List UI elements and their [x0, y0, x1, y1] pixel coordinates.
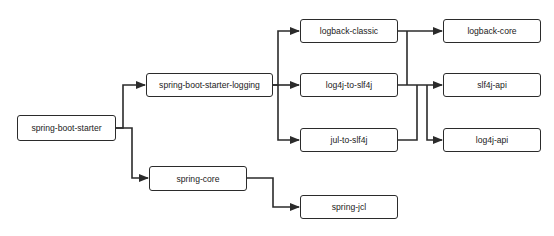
- edge-log4j-to-slf4j-to-log4j-api: [427, 85, 442, 140]
- node-logback-classic: logback-classic: [300, 19, 398, 43]
- node-label: spring-boot-starter: [31, 123, 101, 133]
- node-spring-core: spring-core: [149, 166, 247, 191]
- dependency-diagram: spring-boot-starter spring-boot-starter-…: [0, 0, 554, 236]
- node-label: log4j-to-slf4j: [326, 80, 372, 90]
- node-log4j-api: log4j-api: [443, 128, 541, 152]
- node-label: spring-core: [177, 174, 220, 184]
- edge-logging-to-jul-to-slf4j: [278, 85, 299, 140]
- edge-core-to-jcl: [247, 178, 299, 207]
- node-label: spring-jcl: [332, 202, 366, 212]
- node-log4j-to-slf4j: log4j-to-slf4j: [300, 73, 398, 97]
- edge-starter-to-logging: [116, 85, 145, 128]
- node-spring-boot-starter: spring-boot-starter: [17, 115, 116, 141]
- edge-starter-to-core: [116, 128, 148, 178]
- edge-logging-to-logback-classic: [273, 31, 299, 85]
- node-label: slf4j-api: [477, 80, 507, 90]
- node-spring-boot-starter-logging: spring-boot-starter-logging: [146, 73, 273, 97]
- node-label: jul-to-slf4j: [331, 135, 368, 145]
- node-label: spring-boot-starter-logging: [159, 80, 260, 90]
- edge-jul-to-slf4j-to-slf4j-api: [398, 85, 417, 140]
- node-label: logback-classic: [320, 26, 378, 36]
- node-logback-core: logback-core: [443, 19, 541, 43]
- node-jul-to-slf4j: jul-to-slf4j: [300, 128, 398, 152]
- node-label: logback-core: [467, 26, 516, 36]
- node-slf4j-api: slf4j-api: [443, 73, 541, 97]
- node-label: log4j-api: [476, 135, 509, 145]
- node-spring-jcl: spring-jcl: [300, 195, 398, 219]
